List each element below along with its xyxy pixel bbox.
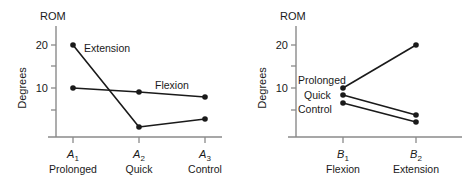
panel-a-xname-3: Control — [188, 163, 222, 175]
panel-a-xname-2: Quick — [126, 163, 154, 175]
panel-a-xname-1: Prolonged — [49, 163, 97, 175]
panel-b-point-quick-b1 — [340, 92, 346, 98]
panel-a-xcode-3: A3 — [198, 148, 211, 163]
panel-b-xcode-1: B1 — [337, 148, 349, 163]
panel-b-xname-2: Extension — [393, 163, 439, 175]
panel-b-point-control-b2 — [413, 119, 419, 125]
panel-a-y-axis-label: Degrees — [16, 67, 28, 109]
panel-b-y-axis-label: Degrees — [256, 67, 268, 109]
panel-b-plot: ROM Degrees 20 10 — [236, 0, 472, 183]
panel-b-point-control-b1 — [340, 100, 346, 106]
panel-a-point-extension-a3 — [202, 116, 208, 122]
panel-a-point-flexion-a3 — [202, 94, 208, 100]
panel-a: ROM Degrees 20 10 — [0, 0, 236, 183]
panel-b-point-quick-b2 — [413, 112, 419, 118]
panel-b-rom-label: ROM — [280, 10, 306, 22]
panel-b-series-label-prolonged: Prolonged — [298, 74, 346, 86]
panel-b-ytick-label-20: 20 — [276, 39, 288, 51]
panel-a-xcode-2: A2 — [132, 148, 145, 163]
panel-b-ytick-label-10: 10 — [276, 82, 288, 94]
panel-a-series-label-extension: Extension — [84, 42, 130, 54]
panel-b-series-label-quick: Quick — [304, 89, 332, 101]
panel-a-ytick-label-20: 20 — [36, 39, 48, 51]
panel-a-series-label-flexion: Flexion — [155, 79, 189, 91]
panel-a-point-extension-a1 — [70, 42, 76, 48]
panel-a-rom-label: ROM — [40, 10, 66, 22]
panel-a-point-flexion-a1 — [70, 85, 76, 91]
panel-a-plot: ROM Degrees 20 10 — [0, 0, 236, 183]
panel-b: ROM Degrees 20 10 — [236, 0, 472, 183]
panel-a-point-flexion-a2 — [136, 89, 142, 95]
panel-a-point-extension-a2 — [136, 124, 142, 130]
panel-a-ytick-label-10: 10 — [36, 82, 48, 94]
panel-b-xcode-2: B2 — [410, 148, 422, 163]
panel-b-point-prolonged-b2 — [413, 42, 419, 48]
panel-b-point-prolonged-b1 — [340, 85, 346, 91]
panel-b-series-prolonged — [343, 45, 416, 88]
panel-a-xcode-1: A1 — [66, 148, 79, 163]
panel-b-xname-1: Flexion — [326, 163, 360, 175]
panel-b-series-label-control: Control — [298, 103, 332, 115]
interaction-plots-figure: ROM Degrees 20 10 — [0, 0, 472, 183]
